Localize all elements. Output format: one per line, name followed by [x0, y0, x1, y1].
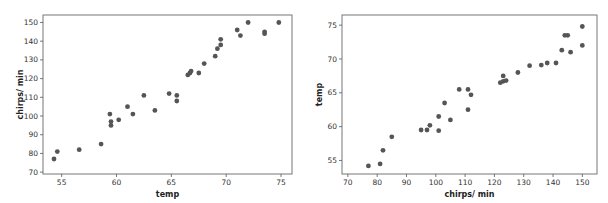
scatter-chart-chirps-vs-temp: 7080901001101201301401505560657075chirps… [300, 0, 608, 203]
y-tick-label: 90 [28, 130, 38, 139]
data-point [77, 147, 82, 152]
data-point [99, 142, 104, 147]
data-point [218, 37, 223, 42]
y-tick-label: 140 [24, 37, 39, 46]
y-tick-label: 100 [24, 112, 39, 121]
data-point [565, 33, 570, 38]
data-point [504, 78, 509, 83]
x-axis-label: chirps/ min [444, 190, 494, 199]
data-point [235, 28, 240, 33]
data-point [466, 107, 471, 112]
chart-right-canvas: 7080901001101201301401505560657075chirps… [300, 0, 608, 203]
data-point [276, 20, 281, 25]
data-point [568, 50, 573, 55]
data-point [580, 24, 585, 29]
data-point [213, 54, 218, 59]
y-tick-label: 110 [24, 93, 39, 102]
data-point [196, 71, 201, 76]
data-point [218, 43, 223, 48]
data-point [52, 157, 57, 162]
x-tick-label: 70 [221, 178, 231, 187]
x-tick-label: 120 [487, 178, 502, 187]
y-tick-label: 75 [327, 21, 337, 30]
data-point [436, 114, 441, 119]
data-point [428, 123, 433, 128]
data-point [389, 134, 394, 139]
scatter-chart-temp-vs-chirps: 5560657075708090100110120130140150tempch… [0, 0, 304, 203]
data-point [142, 93, 147, 98]
y-tick-label: 70 [28, 168, 38, 177]
data-point [425, 128, 430, 133]
data-point [469, 92, 474, 97]
data-point [116, 117, 121, 122]
data-point [448, 118, 453, 123]
data-point [378, 162, 383, 167]
data-point [466, 87, 471, 92]
data-point [457, 87, 462, 92]
y-tick-label: 70 [327, 55, 337, 64]
data-point [109, 123, 114, 128]
data-point [55, 149, 60, 154]
x-tick-label: 130 [517, 178, 532, 187]
x-tick-label: 150 [575, 178, 590, 187]
data-point [125, 104, 130, 109]
data-point [189, 69, 194, 74]
y-tick-label: 120 [24, 74, 39, 83]
data-point [501, 74, 506, 79]
data-point [419, 128, 424, 133]
data-point [246, 20, 251, 25]
y-tick-label: 65 [327, 88, 337, 97]
y-tick-label: 130 [24, 55, 39, 64]
y-tick-label: 150 [24, 18, 39, 27]
x-tick-label: 140 [546, 178, 561, 187]
data-point [554, 61, 559, 66]
data-point [174, 93, 179, 98]
x-tick-label: 80 [372, 178, 382, 187]
data-point [262, 31, 267, 36]
x-tick-label: 100 [429, 178, 444, 187]
x-tick-label: 65 [167, 178, 177, 187]
data-point [153, 108, 158, 113]
x-tick-label: 55 [57, 178, 67, 187]
x-axis-label: temp [156, 190, 180, 199]
data-point [131, 112, 136, 117]
data-point [442, 101, 447, 106]
data-point [580, 43, 585, 48]
y-tick-label: 55 [327, 156, 337, 165]
x-tick-label: 60 [112, 178, 122, 187]
x-tick-label: 90 [402, 178, 412, 187]
data-point [516, 70, 521, 75]
chart-left-canvas: 5560657075708090100110120130140150tempch… [0, 0, 304, 203]
data-point [436, 128, 441, 133]
x-tick-label: 75 [276, 178, 286, 187]
data-point [108, 112, 113, 117]
y-axis-label: chirps/ min [16, 69, 25, 119]
y-axis-label: temp [315, 83, 324, 107]
data-point [539, 63, 544, 68]
data-point [366, 164, 371, 169]
data-point [527, 63, 532, 68]
x-tick-label: 70 [343, 178, 353, 187]
y-tick-label: 80 [28, 149, 38, 158]
data-point [381, 148, 386, 153]
data-point [202, 61, 207, 66]
data-point [545, 61, 550, 66]
data-point [167, 91, 172, 96]
x-tick-label: 110 [458, 178, 473, 187]
data-point [238, 33, 243, 38]
y-tick-label: 60 [327, 122, 337, 131]
data-point [559, 48, 564, 53]
data-point [215, 46, 220, 51]
data-point [174, 99, 179, 104]
